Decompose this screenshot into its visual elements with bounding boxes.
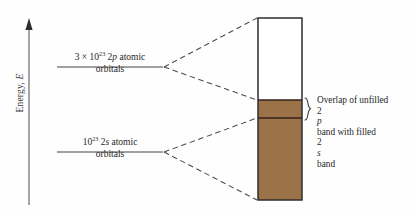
level-2s-orbital-suffix: atomic xyxy=(109,137,137,147)
level-caption-2s: 1023 2s atomic orbitals xyxy=(47,137,173,160)
overlap-line3-prefix: 2 xyxy=(317,137,416,148)
band-filled-region xyxy=(258,100,302,200)
connector-2s-upper xyxy=(164,118,257,152)
overlap-line2-symbol: p xyxy=(317,116,322,126)
energy-axis xyxy=(25,18,32,205)
overlap-annotation-line-2: 2p band with filled xyxy=(317,106,416,138)
energy-band-diagram: Energy, E 3 × 1023 2p atomic orbitals 10… xyxy=(0,0,416,216)
level-2s-secondary-line: orbitals xyxy=(47,149,173,161)
connector-fan-2s xyxy=(164,118,257,200)
energy-axis-arrowhead xyxy=(25,18,32,30)
level-2p-orbital-suffix: atomic xyxy=(117,52,145,62)
overlap-line3-symbol: s xyxy=(317,148,321,158)
level-2p-primary-line: 3 × 1023 2p atomic xyxy=(47,52,173,64)
overlap-line2-suffix: band with filled xyxy=(317,127,416,138)
band-empty-region xyxy=(258,18,302,100)
connector-2p-upper xyxy=(164,18,257,67)
connector-2s-lower xyxy=(164,152,257,200)
overlap-annotation-line-1: Overlap of unfilled xyxy=(317,95,416,106)
level-2s-primary-line: 1023 2s atomic xyxy=(47,137,173,149)
energy-axis-label: Energy, E xyxy=(15,73,25,113)
overlap-annotation: Overlap of unfilled 2p band with filled … xyxy=(317,95,416,169)
level-2s-count-prefix: 10 xyxy=(83,137,93,147)
level-caption-2p: 3 × 1023 2p atomic orbitals xyxy=(47,52,173,75)
overlap-line2-prefix: 2 xyxy=(317,106,416,117)
level-2p-count-prefix: 3 × 10 xyxy=(75,52,99,62)
energy-axis-label-symbol: E xyxy=(15,74,25,80)
overlap-brace-icon xyxy=(305,98,311,120)
overlap-annotation-line-3: 2s band xyxy=(317,137,416,169)
energy-axis-label-text: Energy, xyxy=(15,80,25,113)
connector-fan-2p xyxy=(164,18,257,100)
connector-2p-lower xyxy=(164,67,257,100)
level-2p-secondary-line: orbitals xyxy=(47,64,173,76)
overlap-line3-suffix: band xyxy=(317,159,416,170)
